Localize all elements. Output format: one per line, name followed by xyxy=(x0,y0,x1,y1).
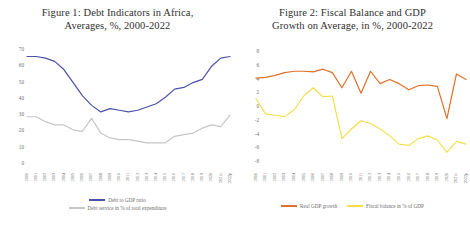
x-tick-label: 2005 xyxy=(302,173,307,181)
x-tick-label: 2011 xyxy=(126,173,131,181)
legend-color-swatch xyxy=(281,205,297,207)
x-tick-label: 2014 xyxy=(387,173,392,181)
figure-2-plot-area xyxy=(255,44,467,172)
x-tick-label: 2015 xyxy=(397,173,402,181)
figure-2-title: Figure 2: Fiscal Balance and GDP Growth … xyxy=(243,6,462,32)
x-tick-label: 2002 xyxy=(273,173,278,181)
legend-label: Real GDP growth xyxy=(300,202,337,210)
figures-sheet: Figure 1: Debt Indicators in Africa, Ave… xyxy=(0,0,470,233)
x-tick-label: 2018 xyxy=(191,173,196,181)
x-tick-label: 2000 xyxy=(254,173,259,181)
figure-2-legend: Real GDP growthFiscal balance in % of GD… xyxy=(235,202,470,210)
x-tick-label: 2006 xyxy=(311,173,316,181)
y-tick-label: 50 xyxy=(19,80,24,85)
figure-1-y-axis: 706050403020100 xyxy=(0,44,26,172)
legend-item[interactable]: Real GDP growth xyxy=(281,202,337,210)
y-tick-label: 40 xyxy=(19,96,24,101)
figure-1-title-line2: Averages, %, 2000-2022 xyxy=(8,19,227,32)
legend-label: Debt service in % of total expenditure xyxy=(88,204,167,212)
y-tick-label: 70 xyxy=(19,47,24,52)
y-tick-label: 0 xyxy=(21,161,24,166)
chart-svg xyxy=(26,44,231,172)
x-tick-label: 2003 xyxy=(52,173,57,181)
x-tick-label: 2019 xyxy=(435,173,440,181)
series-line xyxy=(27,57,230,112)
x-tick-label: 2003 xyxy=(282,173,287,181)
x-tick-label: 2001 xyxy=(263,173,268,181)
x-tick-label: 2019 xyxy=(200,173,205,181)
x-tick-label: 2012 xyxy=(136,173,141,181)
chart-svg xyxy=(255,44,467,172)
x-tick-label: 2010 xyxy=(117,173,122,181)
legend-label: Debt to GDP ratio xyxy=(108,196,146,204)
x-tick-label: 2018 xyxy=(426,173,431,181)
x-tick-label: 2020 xyxy=(445,173,450,181)
figure-2-plot: 86420-2-4-6-8 xyxy=(235,44,470,172)
figure-2-title-line1: Figure 2: Fiscal Balance and GDP xyxy=(243,6,462,19)
x-tick-label: 2004 xyxy=(62,173,67,181)
x-tick-label: 2020 xyxy=(209,173,214,181)
x-tick-label: 2012 xyxy=(368,173,373,181)
x-tick-label: 2022p xyxy=(464,173,469,183)
legend-item[interactable]: Debt service in % of total expenditure xyxy=(69,204,167,212)
legend-color-swatch xyxy=(89,199,105,201)
x-tick-label: 2013 xyxy=(378,173,383,181)
x-tick-label: 2000 xyxy=(25,173,30,181)
x-tick-label: 2011 xyxy=(359,173,364,181)
x-tick-label: 2006 xyxy=(80,173,85,181)
figure-1-title: Figure 1: Debt Indicators in Africa, Ave… xyxy=(8,6,227,32)
series-line xyxy=(27,115,230,143)
legend-label: Fiscal balance in % of GDP xyxy=(366,202,424,210)
series-line xyxy=(256,69,466,119)
figure-2-x-axis: 2000200120022003200420052006200720082009… xyxy=(255,173,467,199)
x-tick-label: 2008 xyxy=(99,173,104,181)
y-tick-label: 30 xyxy=(19,113,24,118)
x-tick-label: 2007 xyxy=(89,173,94,181)
series-line xyxy=(256,88,466,153)
x-tick-label: 2002 xyxy=(43,173,48,181)
x-tick-label: 2016 xyxy=(407,173,412,181)
x-tick-label: 2001 xyxy=(34,173,39,181)
figure-1-panel: Figure 1: Debt Indicators in Africa, Ave… xyxy=(0,0,235,233)
x-tick-label: 2009 xyxy=(340,173,345,181)
x-tick-label: 2007 xyxy=(321,173,326,181)
figure-1-plot-area xyxy=(26,44,231,172)
x-tick-label: 2022p xyxy=(228,173,233,183)
x-tick-label: 2010 xyxy=(349,173,354,181)
x-tick-label: 2021e xyxy=(219,173,224,183)
figure-2-title-line2: Growth on Average, in %, 2000-2022 xyxy=(243,19,462,32)
figure-2-panel: Figure 2: Fiscal Balance and GDP Growth … xyxy=(235,0,470,233)
x-tick-label: 2017 xyxy=(182,173,187,181)
x-tick-label: 2008 xyxy=(330,173,335,181)
y-tick-label: 60 xyxy=(19,64,24,69)
legend-item[interactable]: Fiscal balance in % of GDP xyxy=(347,202,424,210)
legend-item[interactable]: Debt to GDP ratio xyxy=(89,196,146,204)
y-tick-label: 20 xyxy=(19,129,24,134)
figure-1-title-line1: Figure 1: Debt Indicators in Africa, xyxy=(8,6,227,19)
figure-1-legend: Debt to GDP ratioDebt service in % of to… xyxy=(0,196,235,212)
figure-1-plot: 706050403020100 xyxy=(0,44,235,172)
legend-color-swatch xyxy=(69,207,85,209)
y-tick-label: 10 xyxy=(19,145,24,150)
legend-color-swatch xyxy=(347,205,363,207)
x-tick-label: 2014 xyxy=(154,173,159,181)
x-tick-label: 2015 xyxy=(163,173,168,181)
x-tick-label: 2017 xyxy=(416,173,421,181)
x-tick-label: 2016 xyxy=(172,173,177,181)
x-tick-label: 2005 xyxy=(71,173,76,181)
x-tick-label: 2004 xyxy=(292,173,297,181)
x-tick-label: 2009 xyxy=(108,173,113,181)
x-tick-label: 2013 xyxy=(145,173,150,181)
x-tick-label: 2021e xyxy=(454,173,459,183)
